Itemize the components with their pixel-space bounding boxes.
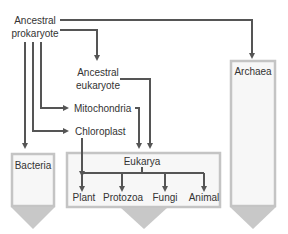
plant-label: Plant [73,192,96,203]
bacteria-continuation-arrow-icon [11,207,55,229]
protozoa-label: Protozoa [103,192,143,203]
edge-mitochondria-eukarya [135,108,139,146]
ancestral-eukaryote-label-1: Ancestral [77,67,119,78]
archaea-box [230,61,276,229]
chloroplast-label: Chloroplast [75,126,126,137]
eukarya-continuation-arrow-icon [121,208,167,229]
archaea-label: Archaea [234,66,272,77]
fungi-label: Fungi [152,192,177,203]
ancestral-prokaryote-label-1: Ancestral [14,15,56,26]
edge-prokaryote-archaea [60,20,252,56]
edge-prokaryote-eukaryote [60,30,97,58]
ancestral-prokaryote-label-2: prokaryote [11,28,59,39]
eukarya-label: Eukarya [124,156,161,167]
mitochondria-label: Mitochondria [74,103,132,114]
edge-prokaryote-mitochondria [41,42,66,108]
archaea-continuation-arrow-icon [230,207,276,229]
ancestral-eukaryote-label-2: eukaryote [76,80,120,91]
animal-label: Animal [189,192,220,203]
endosymbiosis-diagram: Ancestral prokaryote Ancestral eukaryote… [0,0,288,234]
bacteria-label: Bacteria [15,160,52,171]
edge-prokaryote-chloroplast [33,42,66,131]
